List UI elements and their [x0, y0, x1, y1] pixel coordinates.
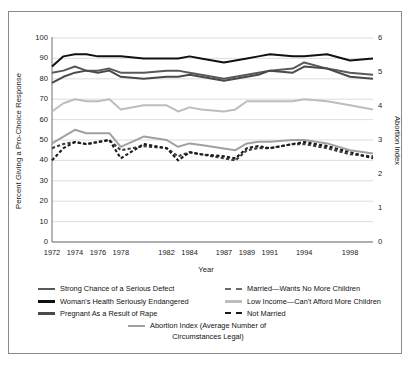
y-tick-left: 100: [22, 34, 48, 42]
legend-label: Woman's Health Seriously Endangered: [60, 297, 189, 307]
x-tick-1994: 1994: [289, 248, 319, 257]
legend-item: Strong Chance of a Serious Defect: [38, 283, 189, 295]
legend-swatch-icon: [225, 309, 242, 318]
series-line: [52, 62, 373, 78]
legend-item-abortion-index: Abortion Index (Average Number of: [128, 320, 266, 332]
legend-swatch-icon: [38, 285, 55, 294]
legend-swatch-icon: [38, 297, 55, 306]
y-tick-right: 2: [378, 170, 392, 178]
legend-item: Abortion Index (Average Number of: [128, 320, 266, 332]
y-tick-left: 30: [22, 177, 48, 185]
y-tick-left: 70: [22, 95, 48, 103]
y-tick-right: 3: [378, 136, 392, 144]
y-tick-left: 20: [22, 197, 48, 205]
y-tick-right: 5: [378, 68, 392, 76]
y-tick-left: 60: [22, 116, 48, 124]
legend-swatch-icon: [38, 309, 55, 318]
series-line: [52, 54, 373, 66]
legend-label: Not Married: [247, 309, 286, 319]
x-tick-1978: 1978: [106, 248, 136, 257]
y-tick-left: 50: [22, 136, 48, 144]
y-tick-left: 80: [22, 75, 48, 83]
y-tick-right: 6: [378, 34, 392, 42]
legend-label: Married—Wants No More Children: [247, 284, 360, 294]
legend-label: Low Income—Can't Afford More Children: [247, 297, 381, 307]
x-tick-1984: 1984: [175, 248, 205, 257]
y-tick-left: 0: [22, 238, 48, 246]
legend-item: Woman's Health Seriously Endangered: [38, 295, 189, 307]
legend-swatch-icon: [225, 285, 242, 294]
legend-swatch-icon: [225, 297, 242, 306]
series-line: [52, 67, 373, 83]
legend-item: Low Income—Can't Afford More Children: [225, 295, 381, 307]
x-tick-1998: 1998: [335, 248, 365, 257]
legend-label: Abortion Index (Average Number of: [150, 321, 266, 331]
legend-column-1: Strong Chance of a Serious DefectWoman's…: [38, 283, 189, 320]
y-tick-left: 40: [22, 156, 48, 164]
y-tick-right: 0: [378, 238, 392, 246]
legend-item: Pregnant As a Result of Rape: [38, 308, 189, 320]
y-tick-left: 90: [22, 54, 48, 62]
legend-item: Not Married: [225, 308, 381, 320]
y-tick-left: 10: [22, 218, 48, 226]
legend-swatch-icon: [128, 322, 145, 331]
x-tick-1991: 1991: [255, 248, 285, 257]
y-tick-right: 1: [378, 204, 392, 212]
y-tick-right: 4: [378, 102, 392, 110]
legend-column-2: Married—Wants No More ChildrenLow Income…: [225, 283, 381, 320]
legend-label: Pregnant As a Result of Rape: [60, 309, 157, 319]
chart-page: Percent Giving a Pro-Choice Response Abo…: [0, 0, 412, 365]
legend-item-abortion-index-line2: Circumstances Legal): [20, 332, 396, 341]
series-line: [52, 99, 373, 111]
legend-label: Strong Chance of a Serious Defect: [60, 284, 174, 294]
legend-item: Married—Wants No More Children: [225, 283, 381, 295]
